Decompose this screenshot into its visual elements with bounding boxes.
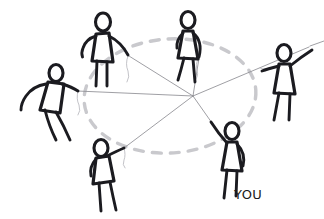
figure-head [96, 13, 111, 31]
wisp-top-left [127, 56, 129, 82]
wisp-bottom-left [123, 148, 125, 168]
figure-leg-right [289, 94, 290, 120]
wisp-left [77, 91, 80, 115]
figure-leg-left [96, 61, 97, 86]
figure-leg-left [224, 170, 227, 198]
figure-head [225, 123, 239, 140]
figure-leg-left [178, 58, 184, 80]
figure-leg-left [45, 110, 56, 140]
figure-torso [274, 64, 295, 94]
figure-head [181, 12, 195, 29]
figure-bottom-left [91, 140, 124, 212]
figure-head [94, 140, 108, 157]
figure-leg-left [99, 183, 101, 211]
figure-left [21, 65, 78, 141]
thread-to-bottom-right [193, 96, 212, 123]
figure-arm-up [107, 148, 124, 156]
figure-head [277, 45, 291, 62]
figure-leg-right [56, 112, 70, 140]
figure-right [262, 41, 324, 120]
thread-to-bottom-left [124, 96, 193, 148]
figure-torso [40, 82, 64, 113]
thread-to-left [77, 91, 193, 96]
figure-leg-right [110, 182, 116, 210]
figure-arm-raised [290, 50, 312, 66]
figure-leg-right [193, 59, 195, 82]
figure-bottom-right: YOU [211, 122, 262, 202]
figure-head [49, 65, 63, 82]
sketch-canvas: YOU [0, 0, 324, 219]
you-label: YOU [233, 187, 262, 202]
thread-offframe [310, 41, 324, 46]
figure-leg-left [274, 93, 279, 120]
